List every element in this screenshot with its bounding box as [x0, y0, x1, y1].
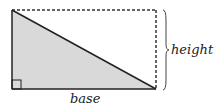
height-label: height — [171, 42, 214, 57]
height-brace — [163, 10, 169, 90]
base-label: base — [70, 91, 101, 106]
triangle-area-diagram: height base — [0, 0, 216, 108]
